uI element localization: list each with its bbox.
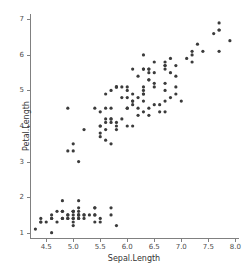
data-point [115,124,118,127]
data-point [93,220,96,223]
data-point [109,142,112,145]
y-tick-mark [27,162,30,163]
data-point [93,213,96,216]
data-point [93,107,96,110]
data-point [136,75,139,78]
x-tick-mark [154,239,155,242]
data-point [136,107,139,110]
data-point [142,110,145,113]
data-point [88,213,91,216]
data-point [163,110,166,113]
data-point [99,124,102,127]
data-points-layer [30,14,238,238]
data-point [163,89,166,92]
data-point [158,110,161,113]
data-point [142,68,145,71]
data-point [66,107,69,110]
data-point [61,199,64,202]
data-point [77,210,80,213]
data-point [185,57,188,60]
data-point [142,89,145,92]
data-point [217,28,220,31]
data-point [126,89,129,92]
data-point [174,92,177,95]
data-point [72,217,75,220]
data-point [142,85,145,88]
x-tick-label: 6.5 [149,243,160,251]
data-point [104,139,107,142]
y-tick-mark [27,90,30,91]
data-point [196,43,199,46]
x-tick-label: 8.0 [230,243,241,251]
data-point [142,53,145,56]
data-point [126,96,129,99]
data-point [126,107,129,110]
data-point [77,199,80,202]
data-point [174,64,177,67]
data-point [169,57,172,60]
data-point [66,213,69,216]
data-point [82,213,85,216]
data-point [104,121,107,124]
data-point [131,100,134,103]
data-point [163,64,166,67]
data-point [153,82,156,85]
x-tick-mark [235,239,236,242]
x-tick-label: 6.0 [122,243,133,251]
data-point [190,60,193,63]
data-point [72,210,75,213]
data-point [147,107,150,110]
data-point [201,50,204,53]
y-axis-title: Petal.Length [22,101,31,151]
y-tick-mark [27,233,30,234]
x-tick-label: 5.5 [95,243,106,251]
data-point [131,124,134,127]
x-tick-mark [73,239,74,242]
data-point [77,217,80,220]
data-point [115,224,118,227]
data-point [104,117,107,120]
data-point [72,213,75,216]
x-tick-mark [127,239,128,242]
data-point [109,117,112,120]
y-tick-mark [27,55,30,56]
data-point [50,213,53,216]
x-tick-mark [181,239,182,242]
data-point [147,114,150,117]
data-point [158,103,161,106]
data-point [174,75,177,78]
data-point [50,231,53,234]
data-point [93,206,96,209]
data-point [39,217,42,220]
data-point [190,50,193,53]
data-point [163,100,166,103]
data-point [120,85,123,88]
data-point [104,92,107,95]
data-point [99,132,102,135]
data-point [163,68,166,71]
data-point [126,85,129,88]
x-tick-label: 7.0 [176,243,187,251]
data-point [190,53,193,56]
data-point [77,160,80,163]
data-point [163,82,166,85]
data-point [136,114,139,117]
data-point [72,224,75,227]
data-point [147,68,150,71]
data-point [61,210,64,213]
data-point [77,206,80,209]
data-point [109,89,112,92]
data-point [109,206,112,209]
data-point [153,85,156,88]
x-tick-mark [46,239,47,242]
data-point [66,149,69,152]
plot-panel [30,14,238,238]
data-point [136,96,139,99]
data-point [217,50,220,53]
data-point [55,220,58,223]
data-point [82,217,85,220]
x-tick-label: 4.5 [41,243,52,251]
data-point [120,96,123,99]
data-point [228,39,231,42]
data-point [72,220,75,223]
